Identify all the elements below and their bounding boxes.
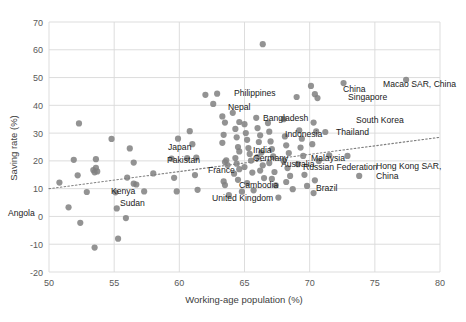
y-tick-50: 50 — [33, 73, 43, 83]
data-point — [245, 145, 251, 151]
point-label: Pakistan — [167, 155, 200, 165]
point-label: South Korea — [356, 115, 404, 125]
data-point — [115, 236, 121, 242]
point-label: Thailand — [336, 127, 369, 137]
data-point — [344, 153, 350, 159]
point-label: Sudan — [120, 198, 145, 208]
data-point — [249, 169, 255, 175]
data-point — [93, 156, 99, 162]
data-point — [294, 94, 300, 100]
x-tick-70: 70 — [305, 278, 315, 288]
data-point — [123, 215, 129, 221]
point-label: Macao SAR, China — [383, 79, 456, 89]
data-point — [244, 137, 250, 143]
data-point — [275, 194, 281, 200]
x-tick-55: 55 — [109, 278, 119, 288]
scatter-chart: 50556065707580 706050403020100-10-20 Ang… — [0, 0, 466, 322]
data-point — [108, 136, 114, 142]
data-point — [232, 155, 238, 161]
data-point — [94, 168, 100, 174]
data-point — [222, 119, 228, 125]
data-point — [236, 148, 242, 154]
data-point — [257, 132, 263, 138]
data-point — [114, 205, 120, 211]
data-point — [232, 126, 238, 132]
data-point — [194, 187, 200, 193]
point-label: Kenya — [111, 186, 136, 196]
data-point — [56, 179, 62, 185]
data-point — [253, 115, 259, 121]
data-point — [257, 168, 263, 174]
data-point — [71, 157, 77, 163]
point-label: Bangladesh — [263, 113, 309, 123]
data-point — [254, 125, 260, 131]
point-label: Japan — [168, 142, 192, 152]
y-tick-20: 20 — [33, 156, 43, 166]
data-point — [260, 41, 266, 47]
point-label: Russian Federation — [303, 162, 378, 172]
data-point — [301, 172, 307, 178]
data-point — [356, 173, 362, 179]
x-tick-50: 50 — [44, 278, 54, 288]
data-point — [202, 92, 208, 98]
data-point — [234, 134, 240, 140]
y-tick--20: -20 — [30, 268, 43, 278]
point-label: Nepal — [228, 102, 251, 112]
data-point — [171, 175, 177, 181]
data-point — [77, 220, 83, 226]
point-label: Philippines — [234, 88, 276, 98]
point-label: Hong Kong SAR, — [376, 161, 441, 171]
point-label: France — [208, 165, 235, 175]
data-point — [214, 91, 220, 97]
data-point — [192, 172, 198, 178]
data-point — [131, 159, 137, 165]
data-point — [219, 113, 225, 119]
data-point — [65, 204, 71, 210]
data-point — [124, 174, 130, 180]
data-point — [283, 179, 289, 185]
data-point — [75, 172, 81, 178]
data-point — [222, 182, 228, 188]
data-point — [309, 141, 315, 147]
data-point — [297, 144, 303, 150]
data-point — [174, 188, 180, 194]
x-tick-75: 75 — [370, 278, 380, 288]
data-point — [187, 128, 193, 134]
x-tick-80: 80 — [435, 278, 445, 288]
point-label: China — [376, 171, 399, 181]
x-axis-title: Working-age population (%) — [185, 294, 303, 305]
data-point — [241, 121, 247, 127]
y-tick-60: 60 — [33, 45, 43, 55]
data-point — [150, 170, 156, 176]
data-point — [127, 145, 133, 151]
data-point — [260, 162, 266, 168]
data-point — [92, 244, 98, 250]
data-point — [219, 140, 225, 146]
data-point — [76, 120, 82, 126]
data-point — [322, 129, 328, 135]
point-label: United Kingdom — [212, 193, 273, 203]
chart-canvas: 50556065707580 706050403020100-10-20 Ang… — [0, 0, 466, 322]
data-point — [314, 95, 320, 101]
data-point — [304, 183, 310, 189]
data-point — [247, 151, 253, 157]
data-point — [210, 101, 216, 107]
x-tick-60: 60 — [174, 278, 184, 288]
y-tick-0: 0 — [38, 212, 43, 222]
point-label: Angola — [8, 208, 35, 218]
data-point — [84, 189, 90, 195]
y-tick-30: 30 — [33, 129, 43, 139]
data-point — [221, 132, 227, 138]
x-tick-65: 65 — [239, 278, 249, 288]
y-tick-70: 70 — [33, 18, 43, 28]
point-label: Indonesia — [285, 129, 322, 139]
data-point — [287, 173, 293, 179]
data-point — [241, 164, 247, 170]
point-label: Cambodia — [239, 180, 278, 190]
y-axis-title: Saving rate (%) — [8, 115, 19, 180]
data-point — [175, 136, 181, 142]
y-tick--10: -10 — [30, 240, 43, 250]
data-point — [271, 169, 277, 175]
y-tick-40: 40 — [33, 101, 43, 111]
data-point — [290, 186, 296, 192]
